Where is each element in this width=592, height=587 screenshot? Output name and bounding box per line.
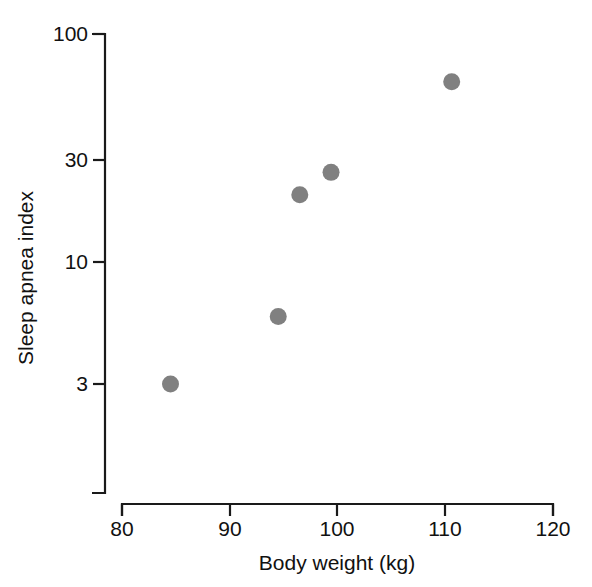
data-point: [323, 164, 340, 181]
y-axis: 100 30 10 3 Sleep apnea index: [14, 22, 105, 493]
x-tick-label-80: 80: [110, 517, 133, 540]
x-tick-label-110: 110: [428, 517, 461, 540]
x-axis-title: Body weight (kg): [259, 551, 415, 574]
data-point: [291, 186, 308, 203]
y-tick-label-3: 3: [76, 372, 88, 395]
scatter-plot-figure: 100 30 10 3 Sleep apnea index 80 90 100 …: [0, 0, 592, 587]
y-tick-label-30: 30: [65, 148, 88, 171]
plot-canvas: 100 30 10 3 Sleep apnea index 80 90 100 …: [0, 0, 592, 587]
data-point: [270, 308, 287, 325]
x-tick-label-120: 120: [535, 517, 570, 540]
y-tick-label-100: 100: [53, 22, 88, 45]
data-points-layer: [162, 73, 460, 392]
data-point: [162, 376, 179, 393]
x-axis: 80 90 100 110 120 Body weight (kg): [110, 504, 570, 574]
y-tick-label-10: 10: [65, 250, 88, 273]
y-axis-spine: [92, 34, 105, 493]
data-point: [443, 73, 460, 90]
x-tick-label-100: 100: [319, 517, 354, 540]
x-tick-label-90: 90: [218, 517, 241, 540]
y-axis-title: Sleep apnea index: [14, 191, 37, 365]
